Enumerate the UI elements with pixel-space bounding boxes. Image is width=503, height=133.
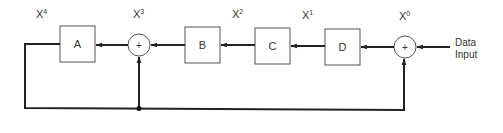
block-b-label: B <box>199 39 206 51</box>
summer-1: + <box>128 34 150 56</box>
tap-label-x0: X0 <box>399 10 410 22</box>
junction-dot <box>137 106 142 111</box>
block-c-label: C <box>269 40 277 52</box>
plus-icon: + <box>402 42 408 53</box>
block-d: D <box>325 29 360 65</box>
data-input-label: DataInput <box>455 37 477 60</box>
tap-label-x2: X2 <box>232 8 243 20</box>
tap-label-x4: X4 <box>36 8 47 20</box>
block-d-label: D <box>339 41 347 53</box>
block-b: B <box>185 27 220 63</box>
block-a-label: A <box>74 38 82 50</box>
tap-label-x3: X3 <box>133 8 144 20</box>
plus-icon: + <box>136 40 142 51</box>
tap-label-x1: X1 <box>302 9 313 21</box>
shift-register-diagram: X4 X3 X2 X1 X0 A B C D + + DataInput <box>0 0 503 133</box>
block-a: A <box>60 26 95 62</box>
block-c: C <box>255 28 290 64</box>
summer-2: + <box>394 36 416 58</box>
